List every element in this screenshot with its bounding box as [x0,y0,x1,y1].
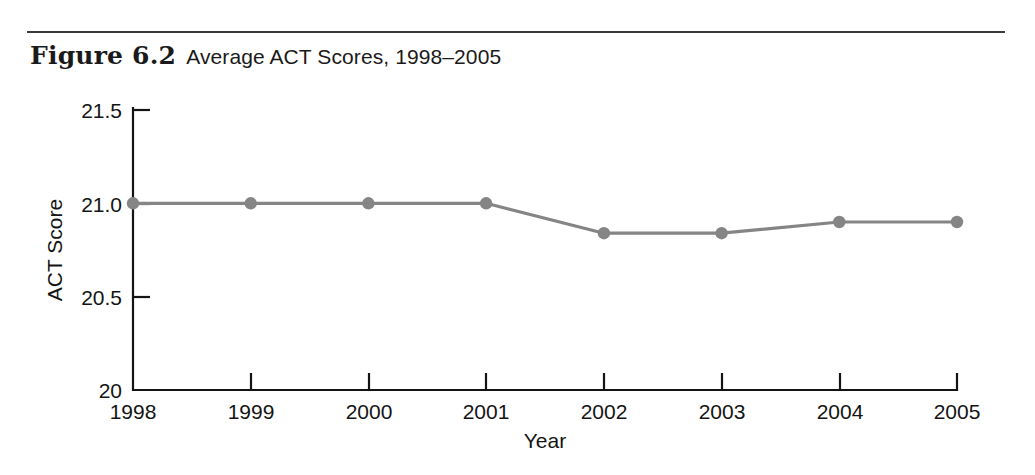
x-tick-label-2003: 2003 [699,400,746,423]
x-tick-label-2002: 2002 [581,400,628,423]
figure-page: Figure 6.2Average ACT Scores, 1998–2005 … [0,0,1035,475]
x-tick-label-1998: 1998 [110,400,157,423]
data-point-2003 [715,227,727,239]
x-tick-label-2004: 2004 [817,400,864,423]
y-axis-title: ACT Score [43,199,66,301]
x-tick-label-2001: 2001 [463,400,510,423]
data-point-1999 [245,197,257,209]
y-tick-label-21-5: 21.5 [81,99,122,122]
series-line-act-score [133,203,957,233]
x-tick-label-2005: 2005 [934,400,981,423]
x-axis-title: Year [524,429,566,452]
data-point-2002 [598,227,610,239]
y-tick-label-20: 20 [99,379,122,402]
data-point-1998 [127,197,139,209]
y-tick-label-20-5: 20.5 [81,286,122,309]
axis-spines [133,108,957,390]
y-tick-label-21-0: 21.0 [81,193,122,216]
x-tick-label-1999: 1999 [228,400,275,423]
data-point-2000 [362,197,374,209]
x-tick-label-2000: 2000 [346,400,393,423]
data-point-2005 [951,216,963,228]
data-point-2001 [480,197,492,209]
data-point-2004 [833,216,845,228]
line-chart: ACT Score 21.5 21.0 20.5 20 1998 1999 20… [0,0,1035,475]
chart-svg: ACT Score 21.5 21.0 20.5 20 1998 1999 20… [0,0,1035,475]
